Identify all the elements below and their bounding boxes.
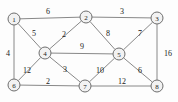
edge-weight-6-7: 2 xyxy=(46,77,50,86)
node-label-8: 8 xyxy=(155,83,159,91)
edge-2-3 xyxy=(92,17,151,18)
edge-weight-4-7: 3 xyxy=(63,65,67,74)
node-label-6: 6 xyxy=(12,82,16,90)
edge-4-5 xyxy=(51,53,113,54)
edge-weight-4-6: 12 xyxy=(23,66,31,75)
edge-weight-5-8: 6 xyxy=(138,66,142,75)
edge-weight-5-7: 10 xyxy=(96,66,104,75)
node-label-5: 5 xyxy=(117,51,121,59)
edge-weight-7-8: 12 xyxy=(118,77,126,86)
edge-2-5 xyxy=(90,21,115,49)
edge-weight-1-2: 6 xyxy=(46,7,50,16)
node-label-4: 4 xyxy=(43,50,47,58)
node-4: 4 xyxy=(39,47,51,59)
edge-weight-3-5: 7 xyxy=(138,29,142,38)
node-label-1: 1 xyxy=(12,16,16,24)
edge-weight-2-5: 8 xyxy=(106,29,110,38)
edge-weight-1-6: 4 xyxy=(6,49,10,58)
edge-1-4 xyxy=(18,23,41,48)
node-2: 2 xyxy=(80,11,92,23)
node-3: 3 xyxy=(151,12,163,24)
node-5: 5 xyxy=(113,48,125,60)
edge-weight-3-8: 16 xyxy=(164,49,172,58)
edge-weight-2-4: 2 xyxy=(62,30,66,39)
weighted-graph-figure: 6352874169123106212 12345678 xyxy=(0,0,178,102)
node-8: 8 xyxy=(151,80,163,92)
nodes-layer: 12345678 xyxy=(8,11,163,92)
edge-weight-4-5: 9 xyxy=(80,42,84,51)
node-7: 7 xyxy=(79,80,91,92)
edge-weight-2-3: 3 xyxy=(120,7,124,16)
node-label-2: 2 xyxy=(84,14,88,22)
edge-weight-1-4: 5 xyxy=(32,29,36,38)
edge-1-2 xyxy=(20,17,80,19)
node-1: 1 xyxy=(8,13,20,25)
node-6: 6 xyxy=(8,79,20,91)
graph-canvas: 6352874169123106212 12345678 xyxy=(0,0,178,102)
node-label-3: 3 xyxy=(155,15,159,23)
edges-layer xyxy=(14,17,157,86)
node-label-7: 7 xyxy=(83,83,87,91)
